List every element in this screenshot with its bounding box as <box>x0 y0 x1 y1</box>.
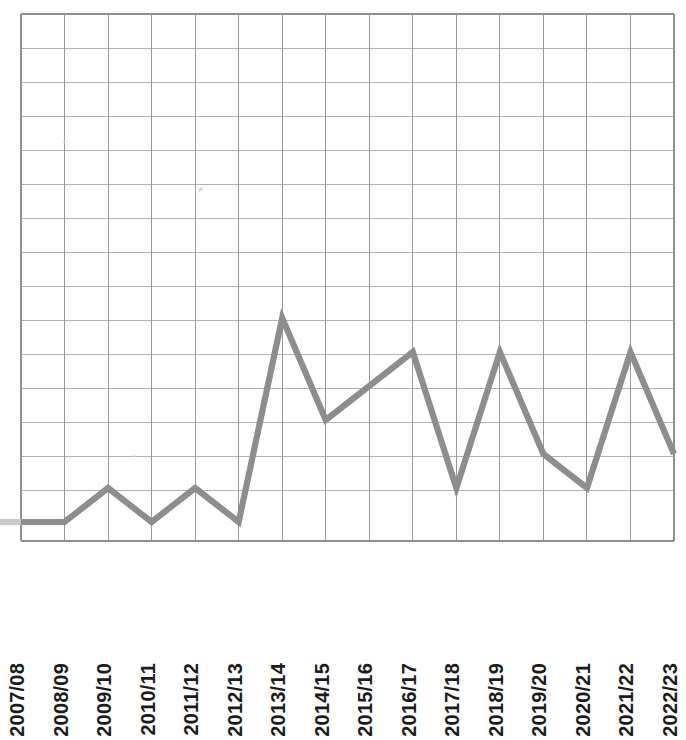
x-tick-label: 2010/11 <box>138 663 158 740</box>
x-tick-label: 2020/21 <box>573 663 593 740</box>
x-tick-label: 2008/09 <box>51 663 71 740</box>
chart-canvas <box>0 0 686 560</box>
x-tick-label: 2012/13 <box>225 663 245 740</box>
vertical-gridlines <box>21 14 674 541</box>
x-tick-label: 2007/08 <box>7 663 27 740</box>
x-tick-label: 2017/18 <box>442 663 462 740</box>
x-tick-label: 2018/19 <box>486 663 506 740</box>
x-tick-label: 2011/12 <box>181 663 201 740</box>
x-axis-tick-labels: 2007/082008/092009/102010/112011/122012/… <box>0 545 686 675</box>
x-tick-label: 2021/22 <box>616 663 636 740</box>
x-tick-label: 2015/16 <box>355 663 375 740</box>
x-tick-label: 2014/15 <box>312 663 332 740</box>
x-tick-label: 2013/14 <box>268 663 288 740</box>
x-tick-label: 2009/10 <box>94 663 114 740</box>
data-series-line <box>21 318 674 522</box>
x-tick-label: 2016/17 <box>399 663 419 740</box>
plot-area <box>0 0 686 560</box>
x-tick-label: 2022/23 <box>660 663 680 740</box>
x-tick-label: 2019/20 <box>529 663 549 740</box>
horizontal-gridlines <box>21 14 674 541</box>
